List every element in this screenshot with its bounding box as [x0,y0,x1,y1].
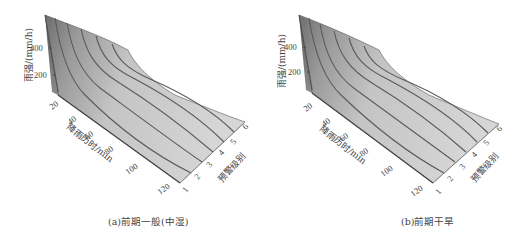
chart-panel-a: 400 200 雨强/(mm/h) 20 40 60 80 100 120 降雨… [0,0,261,239]
z-tick-200: 200 [288,67,301,77]
svg-text:1: 1 [433,187,443,197]
chart-panel-b: 400 200 雨强/(mm/h) 20 40 60 80 100 120 降雨… [257,0,518,239]
svg-text:6: 6 [240,122,250,132]
svg-text:2: 2 [445,174,455,184]
caption-a: (a)前期一般(中湿) [108,214,189,228]
z-axis-label: 雨强/(mm/h) [277,34,287,88]
svg-text:5: 5 [481,138,491,148]
z-axis-label: 雨强/(mm/h) [24,28,34,82]
svg-text:5: 5 [228,137,238,147]
svg-text:120: 120 [408,183,424,199]
svg-text:100: 100 [123,161,139,177]
svg-text:100: 100 [378,163,394,179]
caption-b: (b)前期干旱 [401,214,455,228]
svg-text:4: 4 [469,149,480,159]
svg-text:1: 1 [180,185,190,195]
svg-text:3: 3 [204,160,214,170]
svg-text:3: 3 [457,162,467,172]
svg-text:2: 2 [192,172,202,182]
svg-text:120: 120 [155,181,171,197]
svg-text:4: 4 [216,147,227,157]
surface-plot-b: 400 200 雨强/(mm/h) 20 40 60 80 100 120 降雨… [257,0,518,239]
svg-text:20: 20 [301,101,314,114]
svg-text:6: 6 [494,124,504,134]
z-tick-200: 200 [34,70,47,80]
svg-text:20: 20 [47,99,60,112]
surface-plot-a: 400 200 雨强/(mm/h) 20 40 60 80 100 120 降雨… [0,0,261,239]
